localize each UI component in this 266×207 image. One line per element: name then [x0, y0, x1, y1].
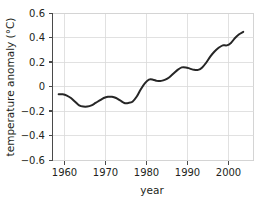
chart-figure: 0.6 0.4 0.2 0 −0.2 −0.4 −0.6 1960 1970 1…: [0, 0, 266, 207]
y-axis-title: temperature anomaly (°C): [4, 18, 16, 157]
y-tick-label: 0.4: [29, 32, 45, 43]
y-tick-label: −0.4: [21, 130, 45, 141]
x-tick-label: 1980: [134, 167, 159, 178]
y-tick-label: 0.6: [29, 8, 45, 19]
y-tick-label: 0.2: [29, 57, 45, 68]
y-tick-label: 0: [39, 81, 45, 92]
y-tick-label: −0.6: [21, 155, 45, 166]
x-tick-label: 1960: [52, 167, 77, 178]
x-tick-label: 1970: [93, 167, 118, 178]
x-axis-title: year: [140, 184, 164, 196]
x-tick-label: 1990: [175, 167, 200, 178]
temperature-anomaly-line-chart: 0.6 0.4 0.2 0 −0.2 −0.4 −0.6 1960 1970 1…: [0, 0, 266, 207]
y-tick-label: −0.2: [21, 106, 45, 117]
x-tick-label: 2000: [216, 167, 241, 178]
